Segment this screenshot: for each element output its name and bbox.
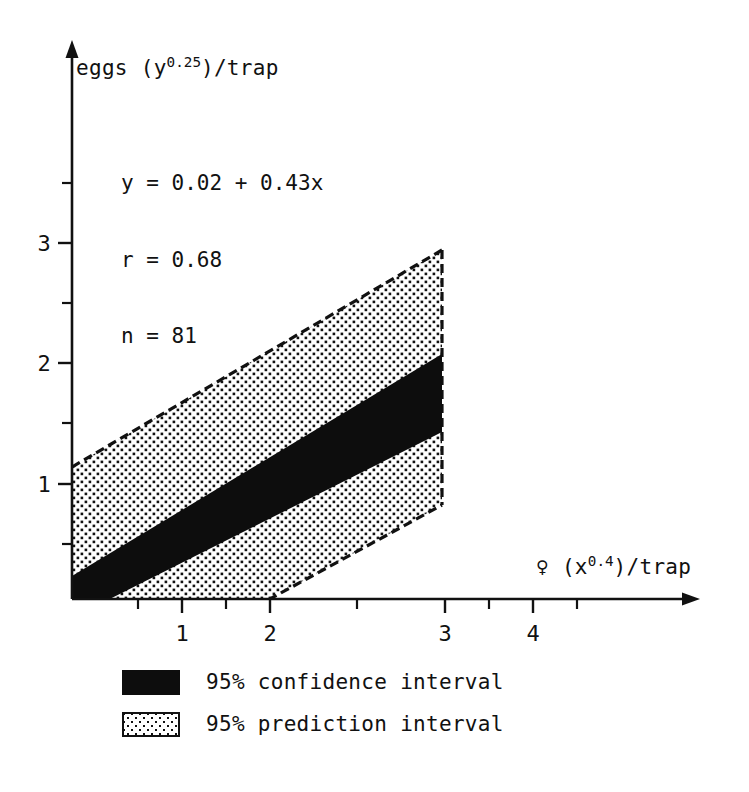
x-tick-label: 3 — [438, 621, 451, 646]
x-axis-arrowhead — [682, 593, 700, 606]
y-axis-label: eggs (y0.25)/trap — [76, 54, 279, 80]
regression-annotation: y = 0.02 + 0.43x r = 0.68 n = 81 — [121, 120, 323, 401]
regression-equation: y = 0.02 + 0.43x — [121, 171, 323, 197]
y-axis-tick-labels: 1 2 3 — [37, 231, 50, 497]
legend-label-confidence: 95% confidence interval — [206, 670, 504, 694]
y-tick-label: 3 — [37, 231, 50, 256]
figure-regression-plot: 1 2 3 1 2 3 4 eggs (y0.25)/trap ♀ (x0.4)… — [0, 0, 749, 792]
x-tick-label: 4 — [526, 621, 539, 646]
regression-sample-size: n = 81 — [121, 324, 323, 350]
legend-swatch-confidence — [122, 670, 180, 695]
legend-label-prediction: 95% prediction interval — [206, 712, 504, 736]
female-symbol-icon: ♀ — [536, 555, 549, 579]
x-axis-minor-ticks — [138, 599, 577, 609]
x-tick-label: 1 — [175, 621, 188, 646]
y-tick-label: 1 — [37, 472, 50, 497]
x-axis-label-post: )/trap — [614, 555, 692, 579]
x-axis-tick-labels: 1 2 3 4 — [175, 621, 539, 646]
y-axis-label-exponent: 0.25 — [167, 54, 201, 70]
x-tick-label: 2 — [263, 621, 276, 646]
legend: 95% confidence interval 95% prediction i… — [122, 661, 504, 745]
regression-correlation: r = 0.68 — [121, 248, 323, 274]
y-tick-label: 2 — [37, 351, 50, 376]
x-axis-label-pre: (x — [549, 555, 588, 579]
x-axis-label-exponent: 0.4 — [588, 553, 614, 569]
legend-item-confidence: 95% confidence interval — [122, 661, 504, 703]
y-axis-label-pre: eggs (y — [76, 56, 167, 80]
y-axis-major-ticks — [58, 243, 72, 484]
legend-item-prediction: 95% prediction interval — [122, 703, 504, 745]
x-axis-label: ♀ (x0.4)/trap — [536, 553, 691, 579]
y-axis-label-post: )/trap — [201, 56, 279, 80]
legend-swatch-prediction — [122, 712, 180, 737]
